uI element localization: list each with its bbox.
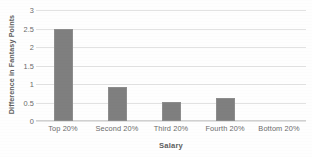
y-tick-label: 3 [14, 6, 34, 15]
plot-area [36, 10, 306, 121]
y-axis-tick-labels: 00.511.522.53 [14, 0, 34, 157]
y-tick-label: 1.5 [14, 61, 34, 70]
bar [162, 102, 181, 121]
gridline [36, 121, 306, 122]
bar [54, 29, 73, 122]
y-tick-label: 0.5 [14, 98, 34, 107]
x-tick-label: Top 20% [36, 124, 90, 133]
x-axis-tick-labels: Top 20%Second 20%Third 20%Fourth 20%Bott… [36, 124, 306, 133]
bar-slot [252, 10, 306, 121]
bar-chart: Difference in Fantasy Points 00.511.522.… [0, 0, 312, 157]
y-tick-label: 2.5 [14, 24, 34, 33]
y-tick-label: 0 [14, 117, 34, 126]
y-tick-label: 2 [14, 43, 34, 52]
y-tick-label: 1 [14, 80, 34, 89]
x-tick-label: Third 20% [144, 124, 198, 133]
bar-series [36, 10, 306, 121]
bar-slot [90, 10, 144, 121]
x-tick-label: Bottom 20% [252, 124, 306, 133]
bar [108, 87, 127, 121]
x-axis-title: Salary [36, 141, 306, 150]
x-tick-label: Fourth 20% [198, 124, 252, 133]
x-tick-label: Second 20% [90, 124, 144, 133]
bar [216, 98, 235, 121]
bar-slot [144, 10, 198, 121]
bar-slot [36, 10, 90, 121]
bar-slot [198, 10, 252, 121]
